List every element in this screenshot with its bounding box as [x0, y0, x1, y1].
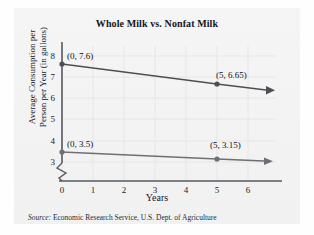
y-axis-label-line2: Person per Year (in gallons) — [38, 27, 48, 127]
x-axis-label: Years — [14, 192, 300, 203]
y-axis-label: Average Consumption per Person per Year … — [27, 17, 49, 137]
y-axis-label-line1: Average Consumption per — [27, 30, 37, 124]
y-tick-6: 6 — [51, 93, 56, 103]
source-note: Source: Economic Research Service, U.S. … — [28, 213, 217, 222]
y-tick-4: 4 — [51, 136, 56, 146]
y-tick-5: 5 — [51, 114, 56, 124]
source-text: Economic Research Service, U.S. Dept. of… — [53, 213, 217, 222]
y-tick-3: 3 — [51, 157, 56, 167]
y-tick-7: 7 — [51, 72, 56, 82]
y-tick-8: 8 — [51, 51, 56, 61]
data-point-whole-0 — [59, 61, 64, 66]
chart-plate: Whole Milk vs. Nonfat Milk — [14, 8, 300, 224]
annotation-whole-5: (5, 6.65) — [216, 70, 247, 80]
data-point-nonfat-5 — [214, 156, 219, 161]
data-point-nonfat-0 — [59, 149, 64, 154]
point-annotations: (0, 7.6) (5, 6.65) (0, 3.5) (5, 3.15) — [67, 51, 247, 150]
annotation-nonfat-0: (0, 3.5) — [67, 139, 93, 149]
annotation-nonfat-5: (5, 3.15) — [210, 140, 241, 150]
chart-screenshot: Whole Milk vs. Nonfat Milk — [0, 0, 314, 235]
y-tick-labels: 8 7 6 5 4 3 — [51, 51, 56, 167]
data-point-whole-5 — [214, 81, 219, 86]
gridlines-vertical — [62, 46, 248, 180]
source-prefix: Source: — [28, 213, 51, 222]
annotation-whole-0: (0, 7.6) — [67, 51, 93, 61]
series-nonfat-milk — [59, 149, 273, 165]
